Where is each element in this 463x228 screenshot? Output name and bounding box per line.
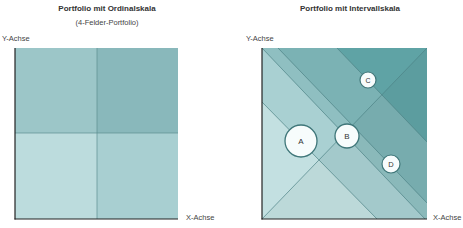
quadrant-top-right [97, 48, 178, 133]
bubble-a: A [285, 125, 317, 157]
four-field-portfolio [15, 48, 179, 220]
quadrant-bottom-left [15, 133, 97, 219]
svg-text:C: C [365, 77, 370, 84]
bubble-c: C [360, 72, 376, 88]
svg-text:D: D [388, 160, 394, 169]
quadrant-top-left [15, 48, 97, 133]
bubble-b: B [335, 124, 359, 148]
bubble-d: D [382, 155, 400, 173]
svg-text:B: B [344, 132, 349, 141]
svg-text:A: A [298, 137, 304, 146]
quadrant-bottom-right [97, 133, 178, 219]
portfolio-diagrams: A B C D [0, 0, 463, 228]
